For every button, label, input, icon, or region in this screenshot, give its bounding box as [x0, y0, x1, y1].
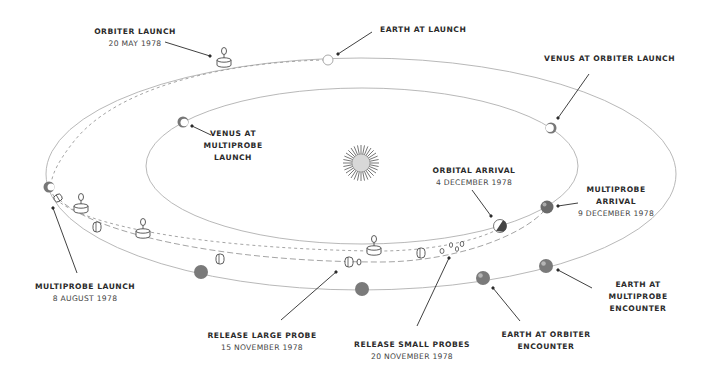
small-probe-icon: [460, 241, 464, 246]
earth-at-multiprobe-launch-icon: [44, 182, 55, 193]
leader-earth-at-launch: [338, 32, 372, 54]
label-date: 8 AUGUST 1978: [30, 293, 140, 305]
sun-icon: [343, 145, 379, 181]
label-line1: VENUS AT: [200, 128, 266, 140]
label-line2: MULTIPROBE: [600, 291, 676, 303]
label-orbital-arrival: ORBITAL ARRIVAL 4 DECEMBER 1978: [424, 165, 524, 189]
large-probe-release-bus-icon: [345, 257, 353, 267]
orbiter-trajectory: [51, 60, 500, 251]
earth-at-orbiter-encounter-icon: [476, 271, 490, 285]
leader-earth-at-multiprobe-encounter: [558, 270, 592, 288]
label-title: MULTIPROBE LAUNCH: [30, 281, 140, 293]
leader-multiprobe-launch: [53, 208, 77, 273]
small-probe-icon: [440, 249, 444, 254]
label-venus-at-multiprobe-launch: VENUS AT MULTIPROBE LAUNCH: [200, 128, 266, 164]
label-line2: ENCOUNTER: [496, 341, 596, 353]
label-date: 20 MAY 1978: [80, 38, 190, 50]
earth-position-icon: [355, 282, 369, 296]
leader-orbital-arrival: [472, 190, 491, 216]
label-title: EARTH AT LAUNCH: [380, 24, 500, 36]
label-multiprobe-arrival: MULTIPROBE ARRIVAL 9 DECEMBER 1978: [566, 184, 666, 220]
venus-at-orbiter-launch-icon: [546, 123, 557, 134]
label-line1: EARTH AT: [600, 279, 676, 291]
small-probe-icon: [449, 243, 452, 248]
orbiter-spacecraft-icon: [74, 194, 88, 214]
small-probe-icon: [455, 247, 458, 252]
label-title: RELEASE SMALL PROBES: [354, 339, 470, 351]
orbiter-spacecraft-icon: [217, 48, 231, 68]
orbiter-spacecraft-icon: [367, 236, 381, 256]
large-probe-icon: [357, 259, 361, 265]
label-title: ORBITER LAUNCH: [80, 26, 190, 38]
leader-release-large-probe: [281, 272, 336, 320]
multiprobe-trajectory: [58, 198, 545, 262]
leader-earth-at-orbiter-encounter: [493, 288, 520, 321]
earth-position-icon: [194, 265, 208, 279]
label-line2: MULTIPROBE: [200, 140, 266, 152]
label-line3: LAUNCH: [200, 152, 266, 164]
label-release-large-probe: RELEASE LARGE PROBE 15 NOVEMBER 1978: [206, 330, 318, 354]
leader-release-small-probes: [417, 258, 449, 326]
label-earth-at-orbiter-encounter: EARTH AT ORBITER ENCOUNTER: [496, 329, 596, 353]
label-multiprobe-launch: MULTIPROBE LAUNCH 8 AUGUST 1978: [30, 281, 140, 305]
multiprobe-bus-icon: [417, 248, 425, 258]
label-line2: ARRIVAL: [566, 196, 666, 208]
label-date: 15 NOVEMBER 1978: [206, 342, 318, 354]
earth-at-launch-icon: [323, 55, 333, 65]
multiprobe-bus-icon: [93, 222, 101, 232]
label-line3: ENCOUNTER: [600, 303, 676, 315]
label-date: 4 DECEMBER 1978: [424, 177, 524, 189]
label-title: ORBITAL ARRIVAL: [424, 165, 524, 177]
orbiter-spacecraft-icon: [136, 219, 150, 239]
venus-at-orbital-arrival-icon: [494, 220, 507, 233]
venus-at-multiprobe-arrival-icon: [541, 201, 554, 214]
multiprobe-bus-icon: [216, 254, 224, 264]
venus-at-multiprobe-launch-icon: [178, 117, 189, 128]
label-release-small-probes: RELEASE SMALL PROBES 20 NOVEMBER 1978: [354, 339, 470, 363]
label-line1: MULTIPROBE: [566, 184, 666, 196]
label-date: 9 DECEMBER 1978: [566, 208, 666, 220]
earth-at-multiprobe-encounter-icon: [539, 259, 553, 273]
label-line1: EARTH AT ORBITER: [496, 329, 596, 341]
label-date: 20 NOVEMBER 1978: [354, 351, 470, 363]
label-orbiter-launch: ORBITER LAUNCH 20 MAY 1978: [80, 26, 190, 50]
label-earth-at-launch: EARTH AT LAUNCH: [380, 24, 500, 36]
label-earth-at-multiprobe-encounter: EARTH AT MULTIPROBE ENCOUNTER: [600, 279, 676, 315]
leader-venus-at-orbiter-launch: [558, 74, 589, 118]
label-title: VENUS AT ORBITER LAUNCH: [544, 53, 712, 65]
label-venus-at-orbiter-launch: VENUS AT ORBITER LAUNCH: [544, 53, 712, 65]
label-title: RELEASE LARGE PROBE: [206, 330, 318, 342]
